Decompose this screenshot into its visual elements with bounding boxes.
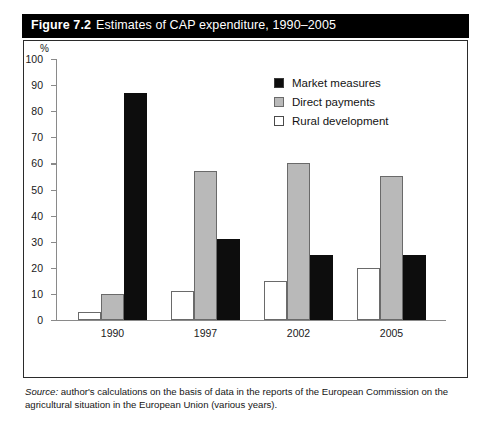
bar-market-measures-1997[interactable] (217, 239, 240, 320)
y-axis-tick-label: 30 (31, 236, 43, 248)
legend-swatch-icon (274, 78, 284, 88)
y-axis-tick-label: 90 (31, 79, 43, 91)
plot-frame: % 0102030405060708090100 199019972002200… (23, 40, 468, 378)
y-axis-tick: 100 (51, 59, 56, 60)
bar-direct-payments-2005[interactable] (380, 176, 403, 320)
y-axis-tick: 50 (51, 190, 56, 191)
chart-legend: Market measuresDirect paymentsRural deve… (274, 73, 389, 130)
figure-container: Figure 7.2Estimates of CAP expenditure, … (22, 14, 469, 418)
figure-number: Figure 7.2 (31, 18, 91, 32)
legend-item-rural-development[interactable]: Rural development (274, 111, 389, 130)
y-axis-tick-label: 60 (31, 157, 43, 169)
y-axis-tick: 20 (51, 268, 56, 269)
x-axis-line (56, 320, 446, 321)
y-axis-line (56, 59, 57, 321)
y-axis-tick: 80 (51, 111, 56, 112)
figure-caption: Estimates of CAP expenditure, 1990–2005 (96, 18, 336, 32)
y-axis-tick-label: 80 (31, 105, 43, 117)
y-axis-tick-label: 70 (31, 131, 43, 143)
legend-label: Market measures (292, 77, 381, 89)
page-title: Figure 7.2Estimates of CAP expenditure, … (31, 18, 336, 32)
legend-label: Direct payments (292, 96, 375, 108)
x-axis-label-2002: 2002 (254, 327, 344, 339)
bar-market-measures-2005[interactable] (403, 255, 426, 320)
legend-label: Rural development (292, 115, 389, 127)
y-axis-tick: 70 (51, 137, 56, 138)
y-axis-tick-label: 10 (31, 288, 43, 300)
bar-group (78, 59, 147, 320)
y-axis-tick: 40 (51, 216, 56, 217)
bar-rural-development-2002[interactable] (264, 281, 287, 320)
y-axis-tick: 0 (51, 320, 56, 321)
y-axis-tick: 90 (51, 85, 56, 86)
bar-direct-payments-1997[interactable] (194, 171, 217, 320)
source-label: Source: (25, 386, 58, 397)
y-axis-tick: 10 (51, 294, 56, 295)
bar-market-measures-2002[interactable] (310, 255, 333, 320)
y-axis-tick-label: 100 (25, 53, 43, 65)
bar-direct-payments-1990[interactable] (101, 294, 124, 320)
figure-title-bar: Figure 7.2Estimates of CAP expenditure, … (22, 14, 469, 38)
bar-rural-development-1990[interactable] (78, 312, 101, 320)
legend-item-market-measures[interactable]: Market measures (274, 73, 389, 92)
y-axis-tick: 30 (51, 242, 56, 243)
legend-swatch-icon (274, 97, 284, 107)
x-axis-label-2005: 2005 (347, 327, 437, 339)
source-text: author's calculations on the basis of da… (25, 386, 448, 410)
y-axis-tick-label: 20 (31, 262, 43, 274)
y-axis-tick: 60 (51, 163, 56, 164)
bar-rural-development-1997[interactable] (171, 291, 194, 320)
x-axis-label-1997: 1997 (161, 327, 251, 339)
bar-group (171, 59, 240, 320)
chart-plot-area: % 0102030405060708090100 199019972002200… (56, 59, 451, 359)
y-axis-tick-label: 50 (31, 184, 43, 196)
legend-swatch-icon (274, 116, 284, 126)
x-axis-label-1990: 1990 (68, 327, 158, 339)
bar-market-measures-1990[interactable] (124, 93, 147, 320)
bar-direct-payments-2002[interactable] (287, 163, 310, 320)
y-axis-tick-label: 0 (37, 314, 43, 326)
legend-item-direct-payments[interactable]: Direct payments (274, 92, 389, 111)
source-note: Source: author's calculations on the bas… (25, 386, 461, 411)
bar-rural-development-2005[interactable] (357, 268, 380, 320)
y-axis-tick-label: 40 (31, 210, 43, 222)
